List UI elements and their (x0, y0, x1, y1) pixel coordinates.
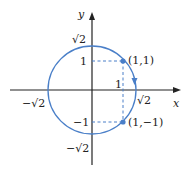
y-axis-arrow-icon (89, 12, 95, 20)
orientation-arrow-icon (132, 78, 138, 85)
y-tick-sqrt2: √2 (72, 33, 86, 46)
x-tick-sqrt2: √2 (137, 94, 151, 107)
y-axis-label: y (77, 8, 85, 21)
y-tick-1: 1 (80, 55, 87, 68)
point-1-1 (120, 58, 125, 63)
dashed-guides (92, 61, 123, 122)
x-axis-arrow-icon (173, 87, 181, 93)
x-tick-1: 1 (115, 78, 122, 91)
x-axis-label: x (173, 97, 180, 110)
coordinate-diagram: y x √2 1 −1 −√2 1 √2 −√2 (1,1) (1,−1) (0, 0, 191, 169)
x-tick-neg-sqrt2: −√2 (22, 97, 45, 110)
point-label-1-neg1: (1,−1) (128, 116, 163, 129)
point-label-1-1: (1,1) (128, 54, 154, 67)
y-tick-neg-sqrt2: −√2 (66, 142, 89, 155)
y-axis (89, 12, 95, 165)
y-tick-neg1: −1 (73, 116, 89, 129)
x-axis (10, 87, 181, 93)
point-1-neg1 (120, 119, 125, 124)
